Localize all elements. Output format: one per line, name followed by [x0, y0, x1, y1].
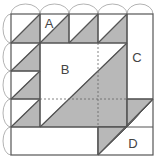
label-d: D [128, 136, 137, 151]
label-c: C [132, 50, 141, 65]
label-a: A [45, 16, 54, 31]
top-arcs [11, 4, 153, 14]
left-arcs [3, 14, 11, 155]
quilt-diagram: A B C D [0, 0, 155, 157]
label-b: B [61, 62, 70, 77]
